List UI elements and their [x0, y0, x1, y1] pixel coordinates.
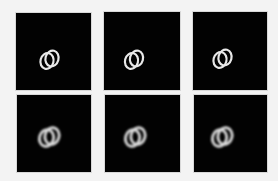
- overlapping-rings-icon: [104, 12, 180, 90]
- overlapping-rings-blurred-icon: [194, 95, 267, 172]
- overlapping-rings-blurred-icon: [17, 95, 91, 172]
- panel-blurred-2: [105, 95, 180, 172]
- overlapping-rings-blurred-icon: [105, 95, 180, 172]
- overlapping-rings-icon: [193, 12, 267, 90]
- panel-sharp-1: [16, 13, 91, 90]
- image-grid: [0, 0, 278, 181]
- panel-sharp-3: [193, 12, 267, 90]
- overlapping-rings-icon: [16, 13, 91, 90]
- panel-blurred-3: [194, 95, 267, 172]
- panel-sharp-2: [104, 12, 180, 90]
- panel-blurred-1: [17, 95, 91, 172]
